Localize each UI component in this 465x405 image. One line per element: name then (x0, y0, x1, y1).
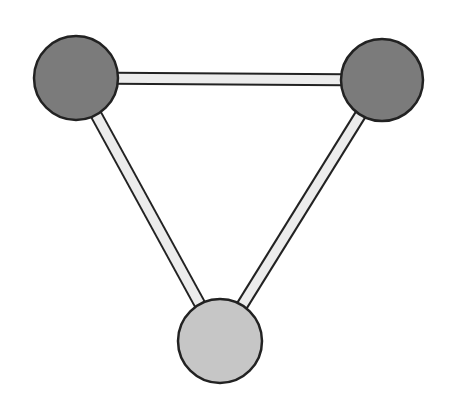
node-top-right (341, 39, 423, 121)
node-top-left (34, 36, 118, 120)
node-bottom (178, 299, 262, 383)
edge-fill (76, 78, 382, 80)
nodes-layer (34, 36, 423, 383)
edge-top-left-to-bottom (76, 78, 220, 341)
edge-top-right-to-bottom (220, 80, 382, 341)
edge-fill (220, 80, 382, 341)
triangle-graph-diagram (0, 0, 465, 405)
edge-fill (76, 78, 220, 341)
edge-top-left-to-top-right (76, 78, 382, 80)
